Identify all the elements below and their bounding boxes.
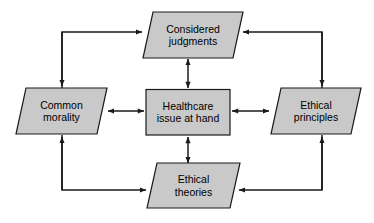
diagram-canvas [0, 0, 374, 223]
connector-elbow-top-right [243, 32, 322, 88]
node-common-morality [16, 88, 107, 134]
connector-elbow-bottom-left [62, 135, 146, 190]
node-ethical-theories [147, 163, 240, 208]
connector-elbow-bottom-right [239, 135, 322, 190]
node-considered-judgments [143, 12, 243, 58]
node-healthcare-issue [146, 90, 230, 136]
ethics-framework-diagram: Considered judgments Common morality Hea… [0, 0, 374, 223]
connector-elbow-top-left [62, 32, 142, 88]
node-ethical-principles [271, 88, 361, 134]
